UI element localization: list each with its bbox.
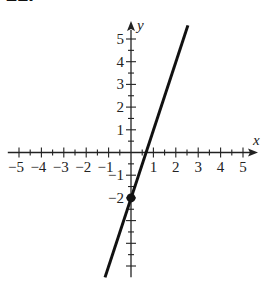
y-tick-label: 3 (117, 76, 125, 92)
y-tick-label: 4 (117, 54, 125, 70)
x-tick-label: 5 (239, 159, 247, 175)
x-tick-label: 4 (217, 159, 225, 175)
y-tick-label: −1 (108, 167, 124, 183)
x-tick-label: 3 (194, 159, 202, 175)
y-tick-label: 5 (117, 31, 125, 47)
x-tick-label: 1 (150, 159, 158, 175)
y-tick-label: 1 (117, 122, 125, 138)
y-axis-arrow-icon (127, 21, 135, 31)
y-tick-label: 2 (117, 99, 125, 115)
y-tick-label: −2 (108, 190, 124, 206)
x-tick-label: −5 (8, 159, 24, 175)
tick-labels: −5−4−3−2−112345−2−112345xy (8, 17, 260, 206)
x-tick-label: −4 (30, 159, 46, 175)
x-tick-label: −2 (75, 159, 91, 175)
coordinate-plane: −5−4−3−2−112345−2−112345xy (0, 0, 262, 289)
y-axis-label: y (135, 17, 144, 33)
x-axis-label: x (252, 132, 260, 148)
x-tick-label: 2 (172, 159, 180, 175)
x-tick-label: −3 (53, 159, 69, 175)
intercept-point (127, 193, 136, 202)
